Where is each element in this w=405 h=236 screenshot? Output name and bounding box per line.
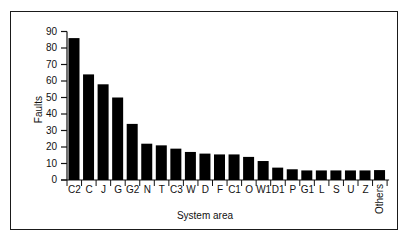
- bar-z: [360, 170, 371, 180]
- bar-c: [83, 74, 94, 180]
- y-tick-label: 0: [37, 174, 57, 185]
- x-tick-label: J: [96, 184, 111, 195]
- x-tick-label: T: [154, 184, 169, 195]
- bar-w1: [258, 161, 269, 180]
- x-tick-label: C1: [227, 184, 242, 195]
- x-tick-label: O: [242, 184, 257, 195]
- bar-chart: Faults System area 0102030405060708090 C…: [0, 0, 405, 236]
- x-tick-label: C2: [67, 184, 82, 195]
- bar-t: [156, 145, 167, 180]
- bar-o: [243, 157, 254, 180]
- x-tick-label: D1: [271, 184, 286, 195]
- y-tick-label: 10: [37, 158, 57, 169]
- x-tick-label: G: [111, 184, 126, 195]
- x-tick-label: C: [82, 184, 97, 195]
- bar-j: [98, 84, 109, 180]
- y-tick-label: 70: [37, 59, 57, 70]
- bar-f: [214, 154, 225, 180]
- bar-c1: [229, 154, 240, 180]
- x-tick-label: Z: [358, 184, 373, 195]
- y-tick-label: 80: [37, 42, 57, 53]
- x-tick-label: S: [329, 184, 344, 195]
- y-tick-label: 40: [37, 108, 57, 119]
- bar-s: [330, 170, 341, 180]
- x-tick-label: P: [285, 184, 300, 195]
- y-tick-label: 60: [37, 75, 57, 86]
- x-tick-label: C3: [169, 184, 184, 195]
- bar-others: [374, 170, 385, 180]
- bar-d: [199, 154, 210, 180]
- bar-g: [112, 98, 123, 181]
- x-tick-label: L: [314, 184, 329, 195]
- y-tick-label: 20: [37, 141, 57, 152]
- x-tick-label: Others: [374, 184, 385, 224]
- x-axis-label: System area: [150, 210, 260, 221]
- bar-c2: [69, 38, 80, 180]
- x-tick-label: G2: [125, 184, 140, 195]
- y-tick-label: 50: [37, 92, 57, 103]
- x-tick-label: F: [213, 184, 228, 195]
- bar-g1: [301, 170, 312, 180]
- bar-w: [185, 152, 196, 180]
- y-tick-label: 30: [37, 125, 57, 136]
- bar-n: [141, 144, 152, 180]
- x-tick-label: D: [198, 184, 213, 195]
- bar-c3: [170, 149, 181, 180]
- x-tick-label: W: [183, 184, 198, 195]
- bar-g2: [127, 124, 138, 180]
- x-tick-label: G1: [300, 184, 315, 195]
- bar-d1: [272, 168, 283, 180]
- y-tick-label: 90: [37, 26, 57, 37]
- x-tick-label: W1: [256, 184, 271, 195]
- bar-u: [345, 170, 356, 180]
- x-tick-label: N: [140, 184, 155, 195]
- bar-p: [287, 169, 298, 180]
- x-tick-label: U: [343, 184, 358, 195]
- plot-area: [0, 0, 405, 236]
- bar-l: [316, 170, 327, 180]
